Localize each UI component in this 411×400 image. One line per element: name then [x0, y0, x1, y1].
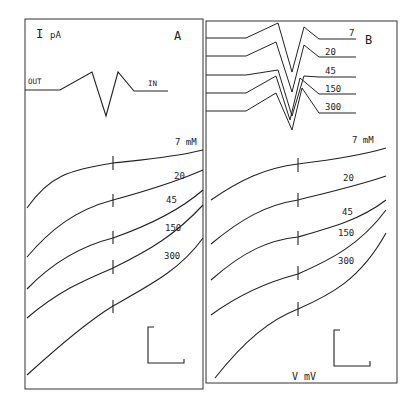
- protocol-label-20: 20: [325, 47, 336, 57]
- figure: I pA A OUT IN 7 mM 20 45 150 300 7 20 45…: [0, 0, 411, 400]
- panel-b-title: B: [365, 33, 372, 47]
- panel-b-scale-bar: [334, 330, 370, 366]
- curve-b-7: [211, 148, 386, 200]
- panel-a-ylabel-unit: pA: [50, 30, 61, 40]
- panel-a-ylabel-i: I: [36, 27, 43, 41]
- in-label: IN: [148, 79, 157, 88]
- curve-label-a-300: 300: [164, 251, 180, 261]
- panel-a-title: A: [174, 29, 182, 43]
- curve-label-a-20: 20: [174, 171, 185, 181]
- protocol-label-7: 7: [349, 28, 354, 38]
- panel-a-scale-bar: [148, 327, 184, 363]
- panel-a-protocol-trace: [25, 72, 168, 116]
- panel-a-curves: [27, 150, 203, 375]
- protocol-label-150: 150: [325, 84, 341, 94]
- out-label: OUT: [28, 77, 42, 86]
- curve-label-b-45: 45: [342, 207, 353, 217]
- curve-label-b-150: 150: [338, 228, 354, 238]
- panel-b-curves: [211, 148, 386, 378]
- curve-a-150: [27, 205, 203, 318]
- panel-b-xlabel: V mV: [292, 371, 316, 382]
- protocol-label-300: 300: [325, 102, 341, 112]
- curve-a-20: [27, 170, 203, 257]
- curve-b-150: [211, 210, 386, 315]
- curve-label-a-7: 7 mM: [175, 137, 197, 147]
- protocol-label-45: 45: [325, 66, 336, 76]
- curve-label-b-7: 7 mM: [352, 135, 374, 145]
- curve-label-a-45: 45: [166, 195, 177, 205]
- panel-b-protocols: [206, 23, 356, 130]
- curve-b-300: [215, 233, 386, 378]
- curve-label-b-300: 300: [338, 256, 354, 266]
- curve-label-b-20: 20: [343, 173, 354, 183]
- curve-label-a-150: 150: [165, 223, 181, 233]
